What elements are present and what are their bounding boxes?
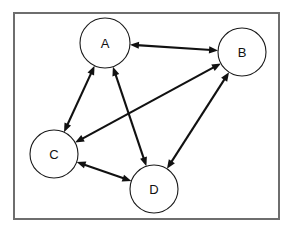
arrowhead-icon bbox=[122, 175, 132, 182]
arrowhead-icon bbox=[140, 157, 147, 167]
arrowhead-icon bbox=[112, 67, 119, 77]
edge-c-d bbox=[77, 162, 132, 182]
node-label: C bbox=[49, 147, 58, 162]
arrowhead-icon bbox=[75, 135, 85, 142]
edge-line bbox=[67, 72, 92, 126]
edge-b-c bbox=[75, 63, 221, 142]
edge-a-b bbox=[130, 42, 218, 54]
graph-node-c[interactable]: C bbox=[30, 130, 78, 178]
edge-line bbox=[83, 164, 125, 179]
graph-node-b[interactable]: B bbox=[218, 28, 266, 76]
graph-canvas: ABCD bbox=[0, 0, 292, 231]
arrowhead-icon bbox=[77, 162, 87, 169]
edge-a-d bbox=[112, 67, 147, 167]
arrowhead-icon bbox=[167, 159, 175, 169]
arrowhead-icon bbox=[211, 63, 221, 70]
edge-a-c bbox=[64, 66, 95, 132]
node-label: D bbox=[149, 182, 158, 197]
node-label: A bbox=[101, 36, 110, 51]
edge-line bbox=[171, 78, 226, 163]
arrowhead-icon bbox=[221, 72, 229, 82]
graph-node-a[interactable]: A bbox=[80, 18, 130, 68]
edge-line bbox=[81, 67, 215, 140]
arrowhead-icon bbox=[209, 46, 218, 53]
arrowhead-icon bbox=[64, 123, 71, 133]
node-label: B bbox=[238, 45, 247, 60]
graph-diagram: ABCD bbox=[0, 0, 292, 231]
graph-node-d[interactable]: D bbox=[130, 165, 178, 213]
nodes-layer: ABCD bbox=[30, 18, 266, 213]
arrowhead-icon bbox=[88, 66, 95, 76]
edge-line bbox=[115, 73, 144, 160]
edge-line bbox=[137, 45, 212, 50]
arrowhead-icon bbox=[130, 42, 139, 49]
